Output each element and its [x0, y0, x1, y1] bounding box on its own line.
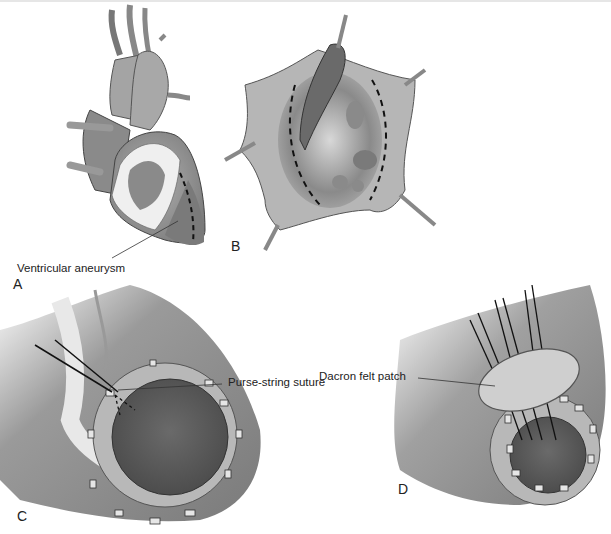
panel-a-heart — [70, 5, 205, 258]
panel-d-dacron-patch — [394, 285, 605, 505]
panel-letter-b: B — [231, 238, 240, 254]
panel-c-purse-string — [0, 285, 261, 524]
callout-purse-string-suture: Purse-string suture — [228, 376, 325, 388]
callout-dacron-felt-patch: Dacron felt patch — [319, 370, 406, 382]
panel-letter-c: C — [17, 508, 27, 524]
callout-ventricular-aneurysm: Ventricular aneurysm — [17, 262, 125, 274]
panel-b-opened-aneurysm — [225, 15, 435, 250]
panel-letter-a: A — [13, 276, 22, 292]
panel-letter-d: D — [398, 481, 408, 497]
